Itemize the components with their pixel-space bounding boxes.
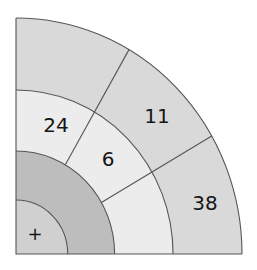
region-label-middle-top: 24 xyxy=(43,113,68,137)
center-plus-label: + xyxy=(27,223,42,244)
region-label-outer-bottom: 38 xyxy=(192,191,217,215)
region-label-outer-middle: 11 xyxy=(144,104,169,128)
dartboard-quadrant: 11 38 24 6 + xyxy=(0,0,257,270)
region-label-middle-middle: 6 xyxy=(102,147,115,171)
